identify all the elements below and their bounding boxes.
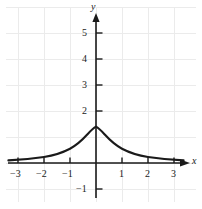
x-tick-label-neg3: −3 [10,169,21,179]
x-tick-label-pos2: 2 [145,169,150,179]
y-tick-label-4: 4 [82,54,87,64]
y-axis-label: y [91,2,95,12]
y-axis [92,13,99,198]
x-axis [8,159,190,166]
y-axis-ticks [96,33,103,189]
y-tick-label-neg1: −1 [76,184,87,194]
x-axis-label: x [192,156,196,166]
x-tick-label-pos3: 3 [171,169,176,179]
x-tick-label-pos1: 1 [119,169,124,179]
x-tick-label-neg1: −1 [62,169,73,179]
gridlines [6,7,196,202]
y-tick-label-3: 3 [82,80,87,90]
y-tick-label-5: 5 [82,28,87,38]
x-tick-label-neg2: −2 [36,169,47,179]
graph-figure: −3 −2 −1 1 2 3 5 4 3 2 −1 y x [0,0,202,209]
y-tick-label-2: 2 [82,106,87,116]
